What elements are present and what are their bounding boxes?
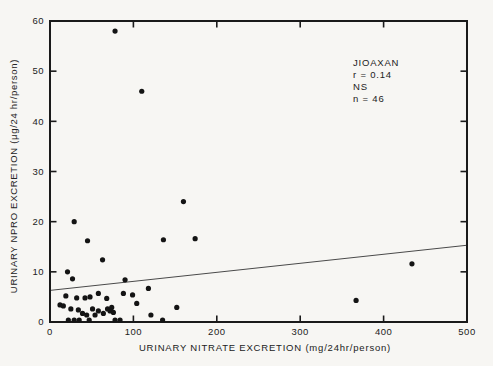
- data-point: [90, 306, 95, 311]
- data-point: [87, 317, 92, 322]
- annotation-study-label: JIOAXAN: [353, 57, 399, 69]
- annotation-r-value: r = 0.14: [353, 69, 399, 81]
- data-point: [70, 276, 75, 281]
- data-point: [148, 312, 153, 317]
- x-axis-label: URINARY NITRATE EXCRETION (mg/24hr/perso…: [139, 342, 391, 353]
- data-point: [82, 295, 87, 300]
- data-point: [96, 308, 101, 313]
- data-point: [72, 219, 77, 224]
- data-point: [101, 311, 106, 316]
- annotation-block: JIOAXAN r = 0.14 NS n = 46: [353, 57, 399, 105]
- x-axis-tick-label: 300: [292, 326, 309, 337]
- y-axis-tick-label: 50: [32, 65, 44, 76]
- data-point: [76, 307, 81, 312]
- data-point: [161, 237, 166, 242]
- regression-line: [50, 245, 467, 290]
- data-point: [109, 305, 114, 310]
- data-point: [130, 292, 135, 297]
- data-point: [112, 28, 117, 33]
- data-point: [96, 291, 101, 296]
- y-axis-tick-label: 30: [32, 166, 44, 177]
- data-point: [193, 236, 198, 241]
- data-point: [61, 303, 66, 308]
- y-axis-tick-label: 0: [38, 316, 44, 327]
- data-point: [122, 277, 127, 282]
- data-point: [100, 257, 105, 262]
- data-point: [92, 312, 97, 317]
- data-point: [409, 261, 414, 266]
- scatter-figure: 01002003004005000102030405060 URINARY NP…: [0, 0, 493, 366]
- data-point: [139, 89, 144, 94]
- y-axis-tick-label: 20: [32, 216, 44, 227]
- y-axis-label: URINARY NPRO EXCRETION (μg/24 hr/person): [8, 59, 19, 293]
- data-point: [104, 296, 109, 301]
- data-point: [121, 291, 126, 296]
- data-point: [77, 317, 82, 322]
- y-axis-tick-label: 40: [32, 116, 44, 127]
- y-axis-tick-label: 10: [32, 266, 44, 277]
- data-point: [353, 298, 358, 303]
- x-axis-tick-label: 200: [208, 326, 225, 337]
- data-point: [84, 312, 89, 317]
- data-point: [134, 301, 139, 306]
- data-point: [66, 317, 71, 322]
- data-point: [74, 295, 79, 300]
- data-point: [181, 199, 186, 204]
- y-axis-tick-label: 60: [32, 15, 44, 26]
- data-point: [68, 306, 73, 311]
- data-point: [160, 317, 165, 322]
- data-point: [117, 317, 122, 322]
- data-point: [72, 317, 77, 322]
- x-axis-tick-label: 400: [375, 326, 392, 337]
- plot-area: 01002003004005000102030405060: [0, 0, 493, 366]
- data-point: [111, 310, 116, 315]
- annotation-n-value: n = 46: [353, 93, 399, 105]
- annotation-significance: NS: [353, 81, 399, 93]
- data-point: [85, 238, 90, 243]
- data-point: [174, 305, 179, 310]
- data-point: [146, 286, 151, 291]
- data-point: [87, 294, 92, 299]
- plot-frame: [50, 21, 467, 322]
- data-point: [63, 293, 68, 298]
- x-axis-tick-label: 0: [47, 326, 53, 337]
- data-point: [112, 317, 117, 322]
- data-point: [65, 269, 70, 274]
- x-axis-tick-label: 500: [458, 326, 475, 337]
- x-axis-tick-label: 100: [125, 326, 142, 337]
